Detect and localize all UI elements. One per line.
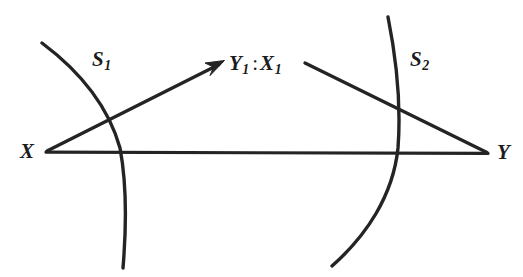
surface-label-s2: S2 [410,49,429,70]
vertex-label-x: X [20,141,34,162]
vertex-label-y: Y [497,142,510,163]
surface-arc-left [42,43,125,268]
center-label-y1-x1: Y1:X1 [229,53,282,74]
surface-label-s2-base: S [410,47,422,71]
center-label-second-base: X [260,51,274,75]
center-label-separator: : [249,51,260,75]
surface-label-s1-subscript: 1 [104,58,111,73]
surface-arc-right [332,17,399,266]
arrow-head-icon [205,61,225,76]
diagram-svg [0,0,523,277]
baseline-x-to-y [46,152,488,153]
diagram-canvas: X Y S1 S2 Y1:X1 [0,0,523,277]
arrow-shaft-x-to-center [47,65,219,152]
center-label-second-subscript: 1 [274,62,281,77]
surface-label-s2-subscript: 2 [422,58,429,73]
center-label-first-subscript: 1 [242,62,249,77]
center-label-first-base: Y [229,51,242,75]
surface-label-s1-base: S [92,47,104,71]
surface-label-s1: S1 [92,49,111,70]
